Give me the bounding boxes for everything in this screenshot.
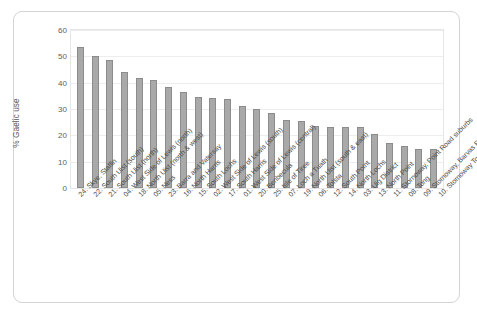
x-tick-label: 05. Ness [152,193,158,199]
y-tick-label: 50 [33,52,67,61]
x-tick-label: 17. South Harris [227,193,233,199]
x-tick-label: 08. Tong [407,193,413,199]
x-tick-label: 01. West Side of Lewis (central) [242,193,248,199]
bar[interactable] [92,56,99,188]
x-tick-label: 15. South Lochs [197,193,203,199]
x-tick-label: 16. North Harris [182,193,188,199]
y-tick-label: 10 [33,157,67,166]
y-tick-label: 30 [33,105,67,114]
bar-slot [88,30,103,188]
chart-card: % Gaelic use 0102030405060 24. Skye, Sta… [13,11,460,303]
bar-slot [73,30,88,188]
x-tick-label: 22. South Uist (south) [92,193,98,199]
y-tick-label: 0 [33,184,67,193]
x-tick-label: 14. North Lochs [347,193,353,199]
bar-slot [176,30,191,188]
x-tick-label: 19. North Uist (south & east) [302,193,308,199]
x-tick-label: 04. West Side of Lewis (north) [122,193,128,199]
x-tick-label: 07. Loch a Tuath [287,193,293,199]
x-axis-tick-labels: 24. Skye, Staffin22. South Uist (south)2… [70,191,444,303]
x-tick-label: 23. Barra and Vatersay [167,193,173,199]
x-tick-label: 18. North Uist (north & west) [137,193,143,199]
x-tick-label: 24. Skye, Staffin [77,193,83,199]
y-axis-title: % Gaelic use [12,68,21,178]
x-tick-label: 02. West Side of Lewis (south) [212,193,218,199]
x-tick-label: 03. Uig District [362,193,368,199]
y-tick-label: 60 [33,26,67,35]
x-tick-label: 09. Stornoway, Barvas Road suburbs [422,193,428,199]
x-tick-label: 21. South Uist (north) [107,193,113,199]
y-tick-label: 40 [33,78,67,87]
x-tick-label: 12. South Point [332,193,338,199]
x-tick-label: 20. Benbecula [257,193,263,199]
x-tick-label: 25. Isle of Tiree [272,193,278,199]
x-tick-label: 13. North Point [377,193,383,199]
bar[interactable] [77,47,84,188]
y-tick-label: 20 [33,131,67,140]
x-tick-label: 11. Stornoway, Point Road suburbs [392,193,398,199]
x-tick-label: 10. Stornoway Town [437,193,443,199]
x-tick-label: 06. Tolsta [317,193,323,199]
